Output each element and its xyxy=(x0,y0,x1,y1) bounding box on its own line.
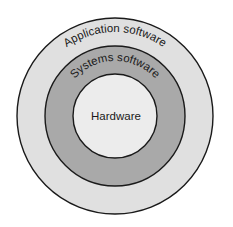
hardware-label: Hardware xyxy=(91,110,141,122)
concentric-layers-diagram: Application software Systems software Ha… xyxy=(0,0,233,227)
